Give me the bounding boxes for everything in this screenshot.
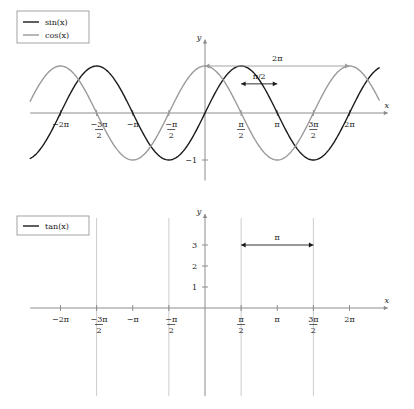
x-tick-den: 2 [311,131,316,140]
x-tick-num: π [238,315,243,324]
x-tick-label: −π [127,315,139,324]
annotation-arrow-right [345,64,350,69]
x-axis-label: x [385,296,390,305]
x-tick-den: 2 [239,326,244,335]
annotation-period-arrow: π [241,233,313,247]
x-tick-label: π [275,120,280,129]
legend-label-cos: cos(x) [45,31,69,40]
y-tick-label: −1 [185,156,197,165]
y-axis-arrowhead [203,214,207,218]
x-axis-arrowhead [384,306,388,310]
x-tick-num: −π [165,120,177,129]
x-axis-arrowhead [384,111,388,115]
annotation-arrow-right [273,81,278,86]
y-tick-label: 2 [192,262,197,271]
x-tick-num: π [238,120,243,129]
annotation-arrow-right [309,243,314,248]
annotation-arrow-left [205,64,210,69]
sin-cos-canvas: xy−2π−3π2−π−π2π2π3π22π−12ππ/2sin(x)cos(x… [0,0,414,205]
tan-plot: xy−2π−3π2−π−π2π2π3π22π123πtan(x) [0,205,414,409]
sin-cos-plot: xy−2π−3π2−π−π2π2π3π22π−12ππ/2sin(x)cos(x… [0,0,414,205]
annotation-arrow-left [241,81,246,86]
x-tick-den: 2 [169,131,174,140]
legend-label-sin: sin(x) [45,18,68,27]
x-tick-label: −3π2 [90,315,107,335]
x-tick-den: 2 [239,131,244,140]
x-tick-num: −π [165,315,177,324]
legend: sin(x)cos(x) [17,11,89,43]
annotation-period-arrow: 2π [205,54,350,68]
annotation-label: π [275,233,280,242]
trigonometric-functions-figure: xy−2π−3π2−π−π2π2π3π22π−12ππ/2sin(x)cos(x… [0,0,414,409]
x-tick-num: 3π [308,315,318,324]
y-axis-label: y [196,207,202,216]
x-tick-label: π2 [237,120,245,140]
y-axis-arrowhead [203,40,207,44]
x-tick-den: 2 [96,326,101,335]
legend-label-tan: tan(x) [45,222,69,231]
x-tick-label: 2π [344,315,354,324]
x-tick-den: 2 [96,131,101,140]
x-tick-label: −π2 [165,120,177,140]
x-tick-label: 3π2 [308,120,318,140]
annotation-label: 2π [272,54,282,63]
x-tick-label: −π2 [165,315,177,335]
x-tick-num: −3π [90,120,107,129]
annotation-phase-shift-arrow: π/2 [241,72,277,86]
legend: tan(x) [17,216,89,235]
y-tick-label: 3 [192,241,197,250]
y-axis-label: y [196,33,202,42]
x-tick-den: 2 [169,326,174,335]
annotation-label: π/2 [253,72,266,81]
annotation-arrow-left [241,243,246,248]
x-axis-label: x [385,101,390,110]
x-tick-label: π [275,315,280,324]
x-tick-label: −2π [52,315,69,324]
y-tick-label: 1 [192,283,197,292]
x-tick-den: 2 [311,326,316,335]
tan-canvas: xy−2π−3π2−π−π2π2π3π22π123πtan(x) [0,205,414,409]
x-tick-num: −3π [90,315,107,324]
